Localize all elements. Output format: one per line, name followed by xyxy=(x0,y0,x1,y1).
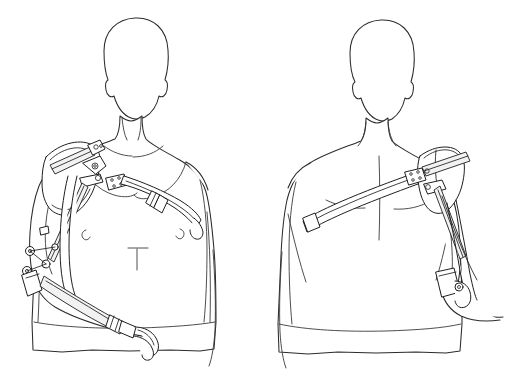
orthosis-illustration: Shoulder and arm orthosis harness — fron… xyxy=(0,0,513,386)
back-elbow-pivot xyxy=(455,283,463,291)
line-drawing-canvas xyxy=(0,0,513,386)
front-rail-cleat xyxy=(40,226,49,235)
